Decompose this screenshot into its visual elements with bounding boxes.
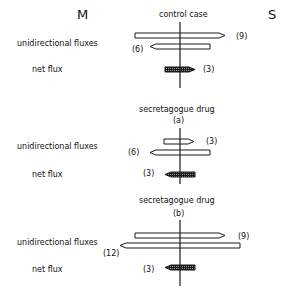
flux-value-label: (3) bbox=[206, 138, 217, 146]
row-label-unidirectional: unidirectional fluxes bbox=[17, 239, 98, 247]
panel-title: control case bbox=[159, 11, 208, 19]
panel-title: secretagogue drug bbox=[139, 197, 215, 205]
row-label-net: net flux bbox=[32, 266, 63, 274]
row-label-net: net flux bbox=[32, 171, 63, 179]
flux-value-label: (6) bbox=[128, 149, 139, 157]
panel-subtitle: (b) bbox=[173, 210, 184, 218]
flux-value-label: (6) bbox=[132, 46, 143, 54]
row-label-unidirectional: unidirectional fluxes bbox=[17, 40, 98, 48]
row-label-net: net flux bbox=[32, 66, 63, 74]
mucosal-side-label: M bbox=[77, 8, 88, 21]
flux-value-label: (3) bbox=[203, 66, 214, 74]
unidirectional-flux-arrow-right bbox=[164, 139, 194, 144]
serosal-side-label: S bbox=[268, 8, 276, 21]
flux-value-label: (3) bbox=[143, 266, 154, 274]
flux-value-label: (9) bbox=[236, 33, 247, 41]
panel-title: secretagogue drug bbox=[139, 106, 215, 114]
flux-value-label: (9) bbox=[238, 233, 249, 241]
row-label-unidirectional: unidirectional fluxes bbox=[17, 143, 98, 151]
flux-value-label: (3) bbox=[143, 170, 154, 178]
flux-value-label: (12) bbox=[103, 250, 119, 258]
panel-subtitle: (a) bbox=[173, 117, 184, 125]
